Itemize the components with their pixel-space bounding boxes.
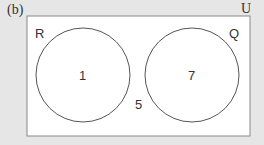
set-r-label: R [35, 26, 44, 41]
universal-set-label: U [241, 1, 251, 16]
outside-count: 5 [135, 97, 142, 112]
venn-diagram: (b) U R Q 1 7 5 [0, 0, 264, 145]
figure-label: (b) [7, 2, 24, 18]
set-q-label: Q [229, 26, 239, 41]
set-r-count: 1 [79, 68, 86, 83]
set-q-count: 7 [188, 68, 195, 83]
